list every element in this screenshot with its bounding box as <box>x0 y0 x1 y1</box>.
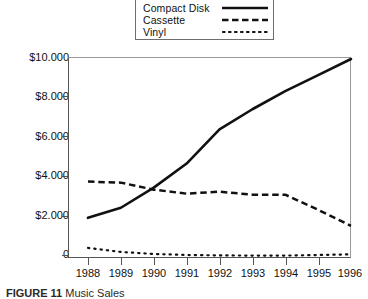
dotted-line-swatch <box>221 27 269 37</box>
y-axis: $10.000 $8.000 $6.000 $4.000 $2.000 0 <box>0 0 69 299</box>
series-line-compact-disk <box>88 59 351 218</box>
figure-caption-text: Music Sales <box>65 287 124 299</box>
legend-label-compact-disk: Compact Disk <box>143 2 210 14</box>
legend-label-cassette: Cassette <box>143 14 185 26</box>
x-tick-mark-1990 <box>154 258 155 265</box>
figure-caption: FIGURE 11 Music Sales <box>6 287 125 299</box>
series-line-vinyl <box>88 248 351 256</box>
y-tick-label-0: 0 <box>7 249 69 260</box>
x-tick-mark-1995 <box>319 258 320 265</box>
solid-line-swatch <box>221 3 269 13</box>
legend-item-vinyl: Vinyl <box>143 25 269 38</box>
x-tick-label-1996: 1996 <box>330 267 368 279</box>
chart-series-layer <box>68 57 351 258</box>
dashed-line-swatch <box>221 15 269 25</box>
x-tick-mark-1991 <box>187 258 188 265</box>
y-tick-label-8000: $8.000 <box>7 91 69 102</box>
y-tick-label-6000: $6.000 <box>7 131 69 142</box>
x-tick-mark-1988 <box>88 258 89 265</box>
figure-music-sales: Compact Disk Cassette Vinyl <box>0 0 368 299</box>
x-tick-mark-1992 <box>220 258 221 265</box>
x-tick-mark-1993 <box>253 258 254 265</box>
y-tick-label-10000: $10.000 <box>7 52 69 63</box>
y-tick-label-4000: $4.000 <box>7 170 69 181</box>
x-tick-mark-1994 <box>286 258 287 265</box>
legend-label-vinyl: Vinyl <box>143 26 166 38</box>
figure-caption-label: FIGURE 11 <box>6 287 62 299</box>
y-tick-label-2000: $2.000 <box>7 210 69 221</box>
chart-legend: Compact Disk Cassette Vinyl <box>135 0 274 40</box>
x-tick-mark-1989 <box>121 258 122 265</box>
